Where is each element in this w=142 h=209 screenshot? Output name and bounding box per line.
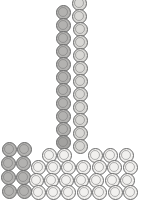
disc <box>77 185 92 200</box>
disc <box>31 185 46 200</box>
disc <box>108 185 123 200</box>
disc <box>2 184 17 199</box>
disc <box>123 185 138 200</box>
disc <box>16 156 31 171</box>
disc <box>46 185 61 200</box>
disc <box>17 142 32 157</box>
disc <box>2 142 17 157</box>
disc <box>1 170 16 185</box>
disc <box>73 139 88 154</box>
disc <box>17 184 32 199</box>
disc <box>1 156 16 171</box>
disc <box>61 185 76 200</box>
disc-packing-canvas <box>0 0 142 209</box>
disc <box>92 185 107 200</box>
